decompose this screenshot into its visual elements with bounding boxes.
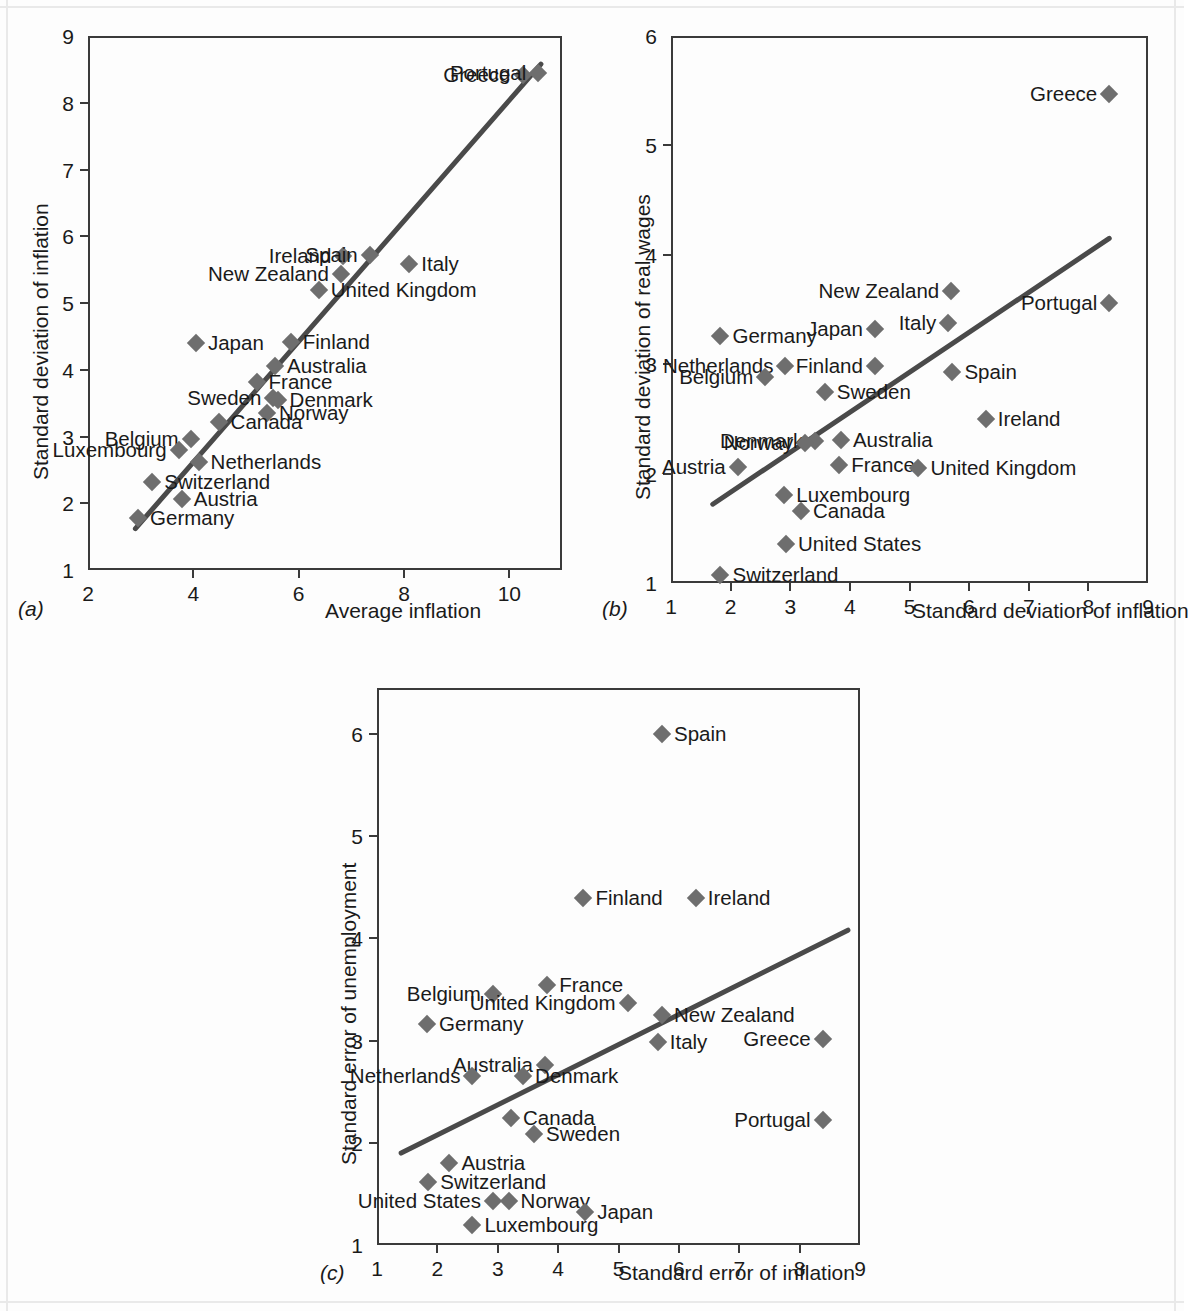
data-point-label: Sweden	[546, 1123, 620, 1144]
data-point-label: Netherlands	[350, 1066, 461, 1087]
data-point-label: New Zealand	[674, 1005, 795, 1026]
data-point-label: Japan	[597, 1202, 653, 1223]
data-point-label: Spain	[674, 724, 726, 745]
x-axis-title-c: Standard error of inflation	[618, 1262, 855, 1283]
data-point-label: Luxembourg	[484, 1214, 598, 1235]
data-point-label: Finland	[595, 887, 662, 908]
data-point-label: Portugal	[734, 1110, 810, 1131]
panel-letter-c: (c)	[320, 1262, 345, 1283]
data-point-label: United States	[358, 1191, 481, 1212]
data-point-label: Germany	[439, 1014, 523, 1035]
data-point-label: Ireland	[708, 887, 771, 908]
data-point-label: Greece	[743, 1028, 810, 1049]
y-axis-title-c: Standard error of unemployment	[338, 863, 359, 1165]
data-point-label: United Kingdom	[470, 993, 616, 1014]
data-point-label: Italy	[670, 1031, 708, 1052]
data-point-label: Denmark	[535, 1066, 618, 1087]
